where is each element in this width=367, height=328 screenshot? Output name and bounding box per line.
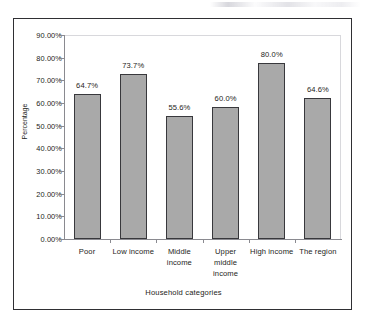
x-axis-tick-mark (203, 239, 204, 243)
bar[interactable] (166, 116, 193, 239)
x-axis-tick-mark (110, 239, 111, 243)
bar[interactable] (258, 63, 285, 239)
bar[interactable] (212, 107, 239, 239)
x-axis-tick-mark (295, 239, 296, 243)
bar-value-label: 64.6% (307, 85, 329, 94)
x-axis-tick-mark (156, 239, 157, 243)
x-axis-title: Household categories (0, 288, 367, 297)
bar[interactable] (74, 94, 101, 239)
bar-value-label: 55.6% (168, 103, 190, 112)
x-axis-category-label: The region (289, 246, 347, 257)
bar-value-label: 60.0% (215, 94, 237, 103)
bar-value-label: 80.0% (261, 50, 283, 59)
bar[interactable] (304, 98, 331, 239)
x-axis-tick-mark (249, 239, 250, 243)
bar[interactable] (120, 74, 147, 239)
bar-value-label: 64.7% (76, 81, 98, 90)
bar-value-label: 73.7% (122, 61, 144, 70)
bars-layer: 64.7%Poor73.7%Low income55.6%Middleincom… (0, 0, 367, 328)
